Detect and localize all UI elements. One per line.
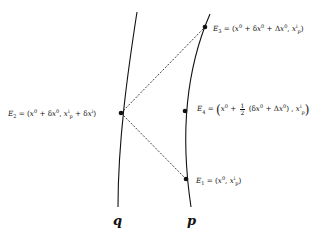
label-e3: E3 = (x0 + δx0 + Δx0, xip) <box>213 25 304 32</box>
label-e2: E2 = (x0 + δx0, xip + δxi) <box>8 110 96 117</box>
dashed-line-e2-e1 <box>121 113 186 179</box>
event-dot-e2 <box>119 111 124 116</box>
fraction-half: 12 <box>240 103 246 116</box>
worldline-q <box>118 12 137 207</box>
label-curve-q: q <box>113 213 122 228</box>
label-e4: E4 = (x0 + 12 (δx0 + Δx0) , xip) <box>197 103 309 116</box>
diagram-canvas <box>0 0 327 236</box>
event-dot-e4 <box>183 109 188 114</box>
event-dot-e3 <box>203 25 208 30</box>
label-curve-p: p <box>187 213 196 228</box>
label-e1: E1 = (x0, xip) <box>196 177 241 184</box>
event-dot-e1 <box>184 177 189 182</box>
